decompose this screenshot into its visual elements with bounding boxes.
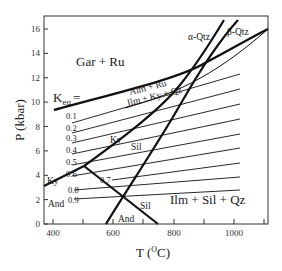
phase-diagram: 0 2 4 6 8 10 12 14 16 400 600 800 1000 P… [0, 0, 282, 271]
x-axis-title: T (OC) [136, 245, 170, 260]
label-alpha-qtz: α-Qtz [188, 32, 210, 42]
y-tick-0: 0 [36, 219, 41, 229]
x-tick-800: 800 [167, 228, 181, 238]
y-axis-ticks [44, 29, 48, 224]
label-k01: 0.1 [66, 111, 77, 121]
x-tick-600: 600 [106, 228, 120, 238]
label-gar-ru: Gar + Ru [76, 54, 125, 69]
y-tick-16: 16 [31, 24, 41, 34]
label-ky-upper: Ky [110, 135, 122, 145]
x-tick-400: 400 [46, 228, 60, 238]
label-k07: 0.7 [100, 175, 111, 185]
label-k04: 0.4 [66, 145, 77, 155]
y-tick-8: 8 [36, 122, 41, 132]
label-sil-bottom: Sil [140, 201, 151, 211]
y-axis-title: P (kbar) [12, 99, 27, 141]
x-axis-tick-labels: 400 600 800 1000 [46, 228, 243, 238]
label-beta-qtz: β-Qtz [227, 27, 249, 37]
label-ilm-sil-qz: Ilm + Sil + Qz [170, 192, 246, 207]
x-tick-1000: 1000 [225, 228, 244, 238]
label-k05: 0.5 [66, 157, 77, 167]
y-tick-14: 14 [31, 48, 41, 58]
y-tick-4: 4 [36, 170, 41, 180]
label-sil-upper: Sil [131, 142, 142, 152]
y-tick-6: 6 [36, 146, 41, 156]
y-tick-12: 12 [31, 73, 40, 83]
y-tick-2: 2 [36, 195, 41, 205]
label-k09: 0.9 [68, 195, 79, 205]
label-k02: 0.2 [66, 123, 77, 133]
label-k03: 0.3 [66, 133, 77, 143]
label-and-left: And [48, 199, 65, 209]
label-keq: Keq= [53, 90, 80, 107]
label-ky-left: Ky [47, 176, 59, 186]
label-k08: 0.8 [68, 185, 79, 195]
y-axis-tick-labels: 0 2 4 6 8 10 12 14 16 [31, 24, 41, 229]
label-and-bottom: And [118, 214, 135, 224]
label-k06: 0.6 [66, 169, 77, 179]
y-tick-10: 10 [31, 97, 41, 107]
